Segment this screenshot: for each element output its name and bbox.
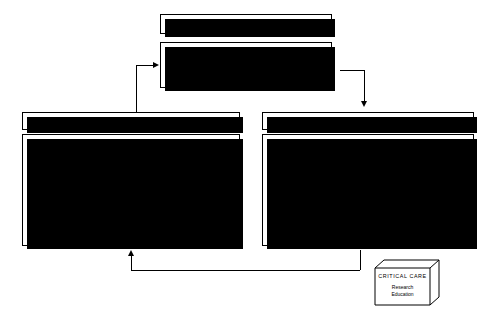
critical-care-cube-item-education: Education: [375, 291, 430, 298]
diagram-canvas: Patient Care Function CRITICAL CARE UNIT…: [0, 0, 486, 314]
banner-decision-function-label: Decision Function: [89, 115, 173, 127]
list-item: Trauma ICU: [166, 75, 262, 83]
list-item: procedures: [262, 67, 293, 75]
connector-units-to-database-horizontal: [340, 70, 364, 71]
critical-care-cube: CRITICAL CARE Research Education: [374, 259, 440, 307]
connector-meeting-to-report-vertical: [191, 196, 192, 224]
connector-database-to-decision-horizontal: [131, 270, 360, 271]
critical-care-units-list: Medical/Surgical ICU Cardiovascular ICU …: [166, 59, 262, 83]
banner-decision-function: Decision Function: [22, 112, 240, 130]
critical-care-cube-item-research: Research: [375, 284, 430, 291]
critical-care-units-box: CRITICAL CARE UNITS Medical/Surgical ICU…: [160, 42, 332, 88]
connector-meeting-to-report-horizontal: [158, 224, 191, 225]
connector-report-to-responsibility-vertical: [80, 202, 81, 224]
connector-report-to-responsibility-horizontal: [80, 224, 113, 225]
database-function-region: [262, 134, 474, 246]
banner-patient-care-function-label: Patient Care Function: [196, 18, 296, 30]
connector-database-to-decision-vertical-left: [131, 256, 132, 270]
arrowhead-into-database-function: [361, 101, 367, 107]
critical-care-cube-title: CRITICAL CARE: [375, 273, 430, 279]
connector-decision-to-units-vertical: [136, 65, 137, 113]
list-item: policies: [262, 59, 293, 67]
connector-units-to-database-vertical: [364, 70, 365, 101]
arrowhead-into-data-analysis: [399, 195, 405, 201]
list-item: Medical/Surgical ICU: [166, 59, 262, 67]
arrowhead-into-decision-function: [128, 250, 134, 256]
arrowhead-into-responsibility-box: [77, 196, 83, 202]
connector-decision-to-units-horizontal: [136, 65, 153, 66]
banner-patient-care-function: Patient Care Function: [160, 14, 332, 34]
critical-care-cube-face: CRITICAL CARE Research Education: [375, 268, 430, 305]
critical-care-units-outputs: policies procedures: [262, 59, 293, 83]
banner-database-function-label: Database Function: [325, 115, 411, 127]
connector-database-to-decision-vertical-right: [360, 250, 361, 270]
arrowhead-into-critical-care-units: [153, 62, 159, 68]
connector-collection-to-management: [346, 165, 360, 166]
decision-function-region: [22, 134, 240, 246]
list-item: Cardiovascular ICU: [166, 67, 262, 75]
arrowhead-into-data-management: [360, 162, 366, 168]
banner-database-function: Database Function: [262, 112, 474, 130]
critical-care-units-title: CRITICAL CARE UNITS: [166, 47, 326, 55]
critical-care-units-columns: Medical/Surgical ICU Cardiovascular ICU …: [166, 59, 326, 83]
